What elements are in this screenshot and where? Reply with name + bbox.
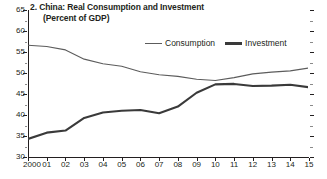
series-line-investment [28,84,308,139]
series-line-consumption [28,45,308,80]
x-tick-label: 05 [115,160,129,170]
y-tick-label: 45 [0,90,25,98]
x-tick-label: 01 [40,160,54,170]
x-tick-label: 13 [265,160,279,170]
x-tick-label: 07 [152,160,166,170]
x-tick-label: 04 [96,160,110,170]
y-tick-minor-right [310,126,313,127]
x-tick-label: 06 [133,160,147,170]
y-tick-major-right [310,136,314,137]
x-tick-label: 15 [302,160,316,170]
y-tick-minor-right [310,21,313,22]
y-tick-major-right [310,73,314,74]
y-tick-label: 35 [0,132,25,140]
y-tick-label: 40 [0,111,25,119]
y-tick-minor-right [310,147,313,148]
y-tick-minor-right [310,84,313,85]
y-tick-major-right [310,10,314,11]
x-tick-label: 09 [190,160,204,170]
x-axis-labels: 2000010203040506070809101112131415 [0,160,327,176]
x-tick-label: 02 [58,160,72,170]
y-tick-major-right [310,31,314,32]
x-tick-label: 10 [208,160,222,170]
y-tick-minor-right [310,105,313,106]
plot-area [28,10,308,157]
y-tick-major-right [310,157,314,158]
y-tick-major-right [310,52,314,53]
chart-container: 2. China: Real Consumption and Investmen… [0,0,327,179]
y-tick-minor-right [310,63,313,64]
x-tick-label: 14 [283,160,297,170]
y-tick-major-right [310,94,314,95]
x-tick-label: 03 [77,160,91,170]
series-canvas [28,10,308,158]
x-tick-label: 08 [171,160,185,170]
y-axis-labels: 3035404550556065 [0,0,26,179]
y-tick-minor-right [310,42,313,43]
x-tick-label: 11 [227,160,241,170]
y-tick-label: 50 [0,69,25,77]
y-tick-label: 55 [0,48,25,56]
y-tick-major-right [310,115,314,116]
y-tick-label: 60 [0,27,25,35]
y-tick-label: 65 [0,6,25,14]
x-tick-label: 12 [246,160,260,170]
